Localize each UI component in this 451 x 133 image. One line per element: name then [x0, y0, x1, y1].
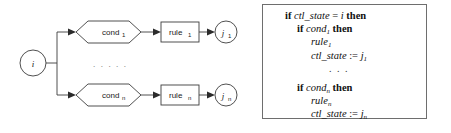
pseudocode-line: if condn then [263, 81, 426, 94]
flow-target-j-n-subscript: n [228, 96, 231, 102]
pseudocode-token: . . . [329, 63, 349, 74]
flow-condition-1-label: cond [102, 28, 119, 37]
pseudocode-token: cond [306, 23, 326, 34]
pseudocode-token: then [330, 82, 352, 93]
pseudocode-token: 1 [364, 55, 368, 63]
pseudocode-line: ctl_state := j1 [263, 49, 426, 62]
pseudocode-token: = [330, 10, 341, 21]
flow-condition-n: cond n [76, 84, 141, 106]
flow-condition-1: cond 1 [76, 21, 141, 43]
pseudocode-token: rule [311, 95, 328, 106]
pseudocode-token: if [297, 82, 306, 93]
flow-rule-1: rule 1 [161, 22, 199, 42]
flowchart-panel: i cond 1 rule [0, 0, 240, 133]
flow-rule-1-label: rule [169, 28, 183, 37]
pseudocode-token: if [297, 23, 306, 34]
flow-target-j-1: j 1 [215, 21, 237, 43]
arrow-into-rule-1 [153, 29, 161, 36]
pseudocode-line: ctl_state := jn [263, 107, 426, 120]
pseudocode-token: cond [306, 82, 326, 93]
flow-rule-n: rule n [161, 85, 199, 105]
flow-target-j-1-label: j [221, 28, 225, 38]
pseudocode-line: if cond1 then [263, 22, 426, 35]
pseudocode-line: rule1 [263, 35, 426, 48]
pseudocode-token: ctl_state [311, 50, 347, 61]
figure-root: i cond 1 rule [0, 0, 451, 133]
pseudocode-token: n [364, 113, 368, 121]
pseudocode-token: := [347, 108, 361, 119]
arrow-into-j-n [207, 92, 215, 99]
pseudocode-token: ctl_state [311, 108, 347, 119]
pseudocode-line: rulen [263, 94, 426, 107]
pseudocode-line: if ctl_state = i then [263, 9, 426, 22]
flow-start-node: i [20, 50, 46, 76]
flow-branch-lines [46, 32, 68, 95]
pseudocode-token: then [330, 23, 352, 34]
pseudocode-lines: if ctl_state = i thenif cond1 thenrule1c… [263, 5, 426, 118]
flow-condition-n-label: cond [102, 91, 119, 100]
pseudocode-token: then [344, 10, 366, 21]
flow-condition-n-subscript: n [122, 95, 125, 101]
arrow-into-cond-1 [68, 29, 76, 36]
flow-rule-n-label: rule [169, 91, 183, 100]
pseudocode-token: := [347, 50, 361, 61]
pseudocode-token: rule [311, 36, 328, 47]
flowchart-ellipsis: . . . . . [93, 59, 128, 69]
arrow-into-j-1 [207, 29, 215, 36]
flow-target-j-n: j n [215, 84, 237, 106]
pseudocode-line: . . . [263, 62, 426, 75]
pseudocode-token: if [285, 10, 294, 21]
pseudocode-token: ctl_state [294, 10, 330, 21]
arrow-into-rule-n [153, 92, 161, 99]
pseudocode-box: if ctl_state = i thenif cond1 thenrule1c… [262, 4, 427, 119]
flow-rule-n-subscript: n [188, 95, 191, 101]
flow-target-j-n-label: j [221, 91, 225, 101]
arrow-into-cond-n [68, 92, 76, 99]
